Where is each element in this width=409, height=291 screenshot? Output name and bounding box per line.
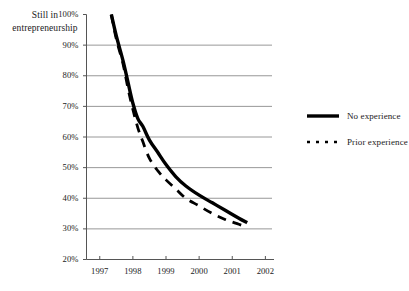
legend-item-prior-experience: Prior experience <box>306 132 406 152</box>
y-axis-tick-label: 20% <box>49 254 79 264</box>
legend-label-no-experience: No experience <box>347 111 401 121</box>
x-axis-tick-label: 2002 <box>245 266 285 276</box>
y-axis-tick-label: 40% <box>49 193 79 203</box>
y-axis-tick-label: 100% <box>49 9 79 19</box>
series-line-prior-experience <box>111 15 247 228</box>
y-axis-tick-label: 90% <box>49 40 79 50</box>
gridlines <box>87 45 273 229</box>
y-axis-tick-label: 50% <box>49 162 79 172</box>
y-axis-tick-label: 30% <box>49 223 79 233</box>
y-axis-ticks <box>83 15 87 260</box>
legend-label-prior-experience: Prior experience <box>347 137 408 147</box>
legend-swatch-solid-line-icon <box>306 110 340 122</box>
legend-swatch-dashed-line-icon <box>306 136 340 148</box>
y-axis-tick-label: 70% <box>49 101 79 111</box>
data-series-layer <box>111 15 247 228</box>
x-axis-ticks <box>100 256 266 260</box>
y-axis-tick-label: 60% <box>49 132 79 142</box>
y-axis-tick-label: 80% <box>49 70 79 80</box>
legend-item-no-experience: No experience <box>306 106 406 126</box>
chart-legend: No experience Prior experience <box>306 106 406 158</box>
chart-container: Still in entrepreneurship 100%90%80%70%6… <box>0 0 409 291</box>
